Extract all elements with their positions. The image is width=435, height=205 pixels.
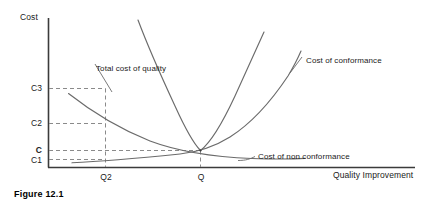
annotation-cost-of-conformance: Cost of conformance (306, 56, 382, 66)
y-tick-label-c1: C1 (14, 155, 42, 165)
figure-caption: Figure 12.1 (14, 189, 64, 199)
y-tick-label-c3: C3 (14, 83, 42, 93)
x-axis-title: Quality Improvement (333, 170, 413, 180)
y-tick-label-c2: C2 (14, 118, 42, 128)
curve-total-cost-of-quality (138, 20, 264, 151)
x-tick-label-q2: Q2 (90, 172, 122, 182)
leader-line-conformance (290, 57, 302, 73)
guide-lines (49, 89, 201, 168)
x-tick-label-q: Q (185, 172, 217, 182)
annotation-total-cost-of-quality: Total cost of quality (96, 64, 166, 74)
optimum-point-marker (199, 149, 201, 151)
y-tick-label-c: C (14, 145, 42, 155)
y-axis-title: Cost (20, 12, 38, 22)
annotation-cost-of-non-conformance: Cost of non conformance (258, 152, 350, 162)
curve-cost-of-non-conformance (69, 94, 306, 160)
figure-container: Cost Quality Improvement C3 C2 C C1 Q2 Q… (0, 0, 435, 205)
